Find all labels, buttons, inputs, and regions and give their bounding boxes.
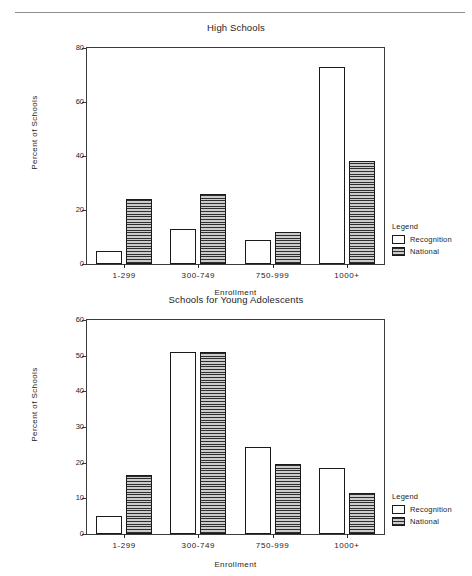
x-tick-label: 1000+ — [334, 271, 359, 280]
x-tick-mark — [347, 264, 348, 268]
bar-recognition-300-749 — [170, 229, 196, 264]
legend: Legend Recognition National — [392, 222, 452, 259]
x-axis-title: Enrollment — [86, 560, 385, 569]
y-tick-label: 60 — [76, 97, 84, 106]
bar-national-1000+ — [349, 161, 375, 264]
bar-national-1000+ — [349, 493, 375, 534]
x-tick-label: 750-999 — [256, 271, 290, 280]
y-tick-label: 0 — [80, 529, 84, 538]
bar-national-300-749 — [200, 194, 226, 264]
bar-national-750-999 — [275, 232, 301, 264]
legend-item-national[interactable]: National — [392, 517, 452, 526]
x-tick-mark — [273, 264, 274, 268]
chart-title: High Schools — [0, 22, 472, 33]
legend-item-national[interactable]: National — [392, 247, 452, 256]
x-tick-label: 1000+ — [334, 541, 359, 550]
legend-label-recognition: Recognition — [410, 505, 452, 514]
x-tick-mark — [124, 264, 125, 268]
x-tick-label: 300-749 — [182, 271, 216, 280]
chart-high-schools: High Schools Percent of Schools 02040608… — [0, 18, 472, 290]
plot-area: 0204060801-299300-749750-9991000+ — [86, 47, 385, 265]
y-tick-label: 50 — [76, 351, 84, 360]
legend-swatch-recognition-icon — [392, 505, 405, 514]
legend-item-recognition[interactable]: Recognition — [392, 235, 452, 244]
legend-swatch-recognition-icon — [392, 235, 405, 244]
bar-national-750-999 — [275, 464, 301, 534]
y-tick-label: 40 — [76, 151, 84, 160]
legend: Legend Recognition National — [392, 492, 452, 529]
x-tick-label: 300-749 — [182, 541, 216, 550]
x-tick-label: 1-299 — [112, 271, 135, 280]
x-tick-mark — [347, 534, 348, 538]
y-tick-label: 20 — [76, 205, 84, 214]
plot-area: 01020304050601-299300-749750-9991000+ — [86, 319, 385, 535]
legend-item-recognition[interactable]: Recognition — [392, 505, 452, 514]
page-top-rule — [15, 12, 465, 13]
legend-title: Legend — [392, 492, 452, 501]
legend-title: Legend — [392, 222, 452, 231]
x-tick-mark — [198, 264, 199, 268]
bar-recognition-1-299 — [96, 251, 122, 265]
x-tick-mark — [198, 534, 199, 538]
bar-recognition-1000+ — [319, 468, 345, 534]
bar-recognition-1000+ — [319, 67, 345, 264]
bar-recognition-1-299 — [96, 516, 122, 534]
x-tick-mark — [124, 534, 125, 538]
bar-recognition-750-999 — [245, 447, 271, 534]
legend-label-national: National — [410, 517, 439, 526]
legend-label-recognition: Recognition — [410, 235, 452, 244]
y-tick-label: 60 — [76, 315, 84, 324]
x-tick-label: 1-299 — [112, 541, 135, 550]
bar-recognition-300-749 — [170, 352, 196, 534]
legend-label-national: National — [410, 247, 439, 256]
y-tick-label: 20 — [76, 458, 84, 467]
y-tick-label: 30 — [76, 422, 84, 431]
chart-title: Schools for Young Adolescents — [0, 294, 472, 305]
bar-national-300-749 — [200, 352, 226, 534]
bar-national-1-299 — [126, 199, 152, 264]
legend-swatch-national-icon — [392, 517, 405, 526]
y-tick-label: 80 — [76, 43, 84, 52]
y-tick-label: 10 — [76, 493, 84, 502]
legend-swatch-national-icon — [392, 247, 405, 256]
x-tick-label: 750-999 — [256, 541, 290, 550]
y-tick-label: 0 — [80, 259, 84, 268]
bar-recognition-750-999 — [245, 240, 271, 264]
y-axis-title: Percent of Schools — [30, 345, 39, 465]
y-axis-title: Percent of Schools — [30, 73, 39, 193]
bar-national-1-299 — [126, 475, 152, 534]
x-tick-mark — [273, 534, 274, 538]
y-tick-label: 40 — [76, 386, 84, 395]
chart-schools-for-young-adolescents: Schools for Young Adolescents Percent of… — [0, 292, 472, 576]
